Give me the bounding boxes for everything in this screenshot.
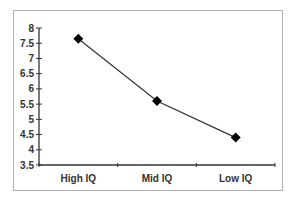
- x-axis: High IQMid IQLow IQ: [39, 163, 275, 184]
- y-tick-label: 7.5: [20, 38, 34, 49]
- y-tick-label: 4.5: [20, 129, 34, 140]
- series-line: [78, 39, 235, 138]
- y-tick-label: 5.5: [20, 99, 34, 110]
- data-series: [73, 34, 240, 143]
- y-tick-label: 4: [28, 144, 34, 155]
- y-tick-label: 7: [28, 53, 34, 64]
- y-tick-label: 6: [28, 83, 34, 94]
- y-tick-label: 5: [28, 114, 34, 125]
- x-category-label: Mid IQ: [142, 173, 173, 184]
- y-tick-label: 8: [28, 23, 34, 34]
- y-axis: 87.576.565.554.543.5: [20, 23, 42, 171]
- y-tick-label: 6.5: [20, 68, 34, 79]
- x-category-label: High IQ: [61, 173, 97, 184]
- diamond-marker: [231, 133, 241, 143]
- y-tick-label: 3.5: [20, 160, 34, 171]
- line-chart: 87.576.565.554.543.5 High IQMid IQLow IQ: [0, 0, 296, 200]
- x-category-label: Low IQ: [219, 173, 253, 184]
